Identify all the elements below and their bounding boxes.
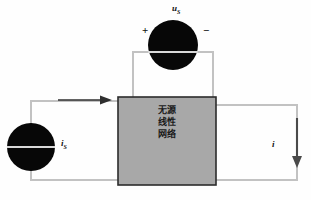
terminal-negative-label: −	[203, 25, 209, 36]
wire-left-top	[31, 101, 118, 131]
network-box-line-2: 线性	[118, 116, 216, 128]
source-voltage-subscript: S	[177, 9, 180, 15]
voltage-source-circle	[148, 20, 198, 70]
circuit-schematic-svg	[0, 0, 311, 200]
output-arrow-head	[292, 156, 302, 168]
network-box-line-1: 无源	[118, 104, 216, 116]
response-current-label: i	[272, 140, 275, 149]
source-current-subscript: S	[64, 144, 67, 150]
current-source-symbol	[7, 123, 55, 171]
wire-right-loop	[216, 105, 297, 180]
source-voltage-label: uS	[172, 4, 180, 15]
network-box-line-3: 网络	[118, 128, 216, 140]
input-arrow-head	[100, 96, 112, 105]
network-box-text: 无源 线性 网络	[118, 104, 216, 140]
source-current-label: iS	[61, 139, 67, 150]
input-current-arrow	[58, 96, 112, 105]
voltage-source-symbol	[148, 20, 198, 70]
terminal-positive-label: +	[142, 25, 148, 36]
output-current-arrow	[292, 118, 302, 168]
circuit-diagram: uS + − iS i 无源 线性 网络	[0, 0, 311, 200]
